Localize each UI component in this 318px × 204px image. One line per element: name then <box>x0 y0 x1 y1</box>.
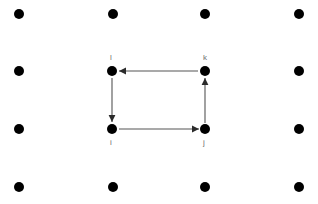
graph-nodes <box>107 66 210 134</box>
lattice-dot <box>14 124 24 134</box>
graph-node-k <box>200 66 210 76</box>
lattice-dot <box>200 182 210 192</box>
arrowhead-right-icon <box>192 126 199 133</box>
graph-node-j <box>200 124 210 134</box>
lattice-dot <box>14 66 24 76</box>
edge-k-to-l <box>119 68 198 75</box>
edge-j-to-k <box>202 78 209 123</box>
lattice-dot <box>294 124 304 134</box>
lattice-dot <box>294 182 304 192</box>
edge-l-to-i <box>109 78 116 122</box>
lattice-dot <box>294 9 304 19</box>
node-label-k: k <box>203 53 207 62</box>
graph-node-i <box>107 124 117 134</box>
node-label-i: i <box>110 138 112 147</box>
node-label-l: l <box>110 53 112 62</box>
graph-edges <box>109 68 209 133</box>
edge-i-to-j <box>119 126 199 133</box>
lattice-dot <box>108 182 118 192</box>
arrowhead-left-icon <box>119 68 126 75</box>
arrowhead-up-icon <box>202 78 209 85</box>
figure-canvas: l k i j <box>0 0 318 204</box>
lattice-dot-grid <box>14 9 304 192</box>
lattice-dot <box>108 9 118 19</box>
lattice-dot <box>294 66 304 76</box>
node-label-j: j <box>203 138 205 147</box>
arrowhead-down-icon <box>109 115 116 122</box>
lattice-dot <box>14 182 24 192</box>
lattice-dot <box>200 9 210 19</box>
lattice-dot <box>14 9 24 19</box>
graph-node-l <box>107 66 117 76</box>
lattice-graph-diagram <box>0 0 318 204</box>
